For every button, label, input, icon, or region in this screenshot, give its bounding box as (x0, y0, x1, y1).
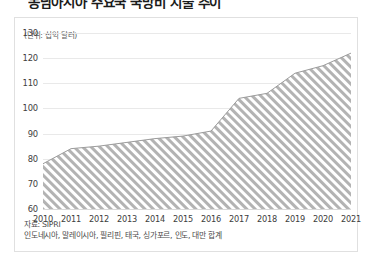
plot-area: 60708090100110120130 2010201120122013201… (43, 33, 351, 209)
y-tick-label-70: 70 (28, 179, 38, 189)
y-tick-label-100: 100 (23, 103, 38, 113)
page-root: 동남아시아 주요국 국방비 지출 추이 (단위: 십억 달러) 60708090… (0, 0, 373, 264)
y-tick-label-110: 110 (23, 78, 38, 88)
y-tick-label-120: 120 (23, 53, 38, 63)
x-tick-label-2018: 2018 (257, 214, 277, 224)
chart-card: (단위: 십억 달러) 60708090100110120130 2010201… (14, 17, 358, 252)
area-series (43, 33, 351, 209)
source-label: 자료: SIPRI (24, 219, 222, 231)
series-note-label: 인도네시아, 말레이시아, 필리핀, 태국, 싱가포르, 인도, 대만 합계 (24, 230, 222, 242)
series-layer (43, 33, 351, 209)
y-tick-label-60: 60 (28, 204, 38, 214)
x-tick-label-2019: 2019 (285, 214, 305, 224)
y-tick-label-130: 130 (23, 28, 38, 38)
gridline-60 (43, 209, 351, 210)
page-title: 동남아시아 주요국 국방비 지출 추이 (28, 0, 348, 9)
footnotes: 자료: SIPRI 인도네시아, 말레이시아, 필리핀, 태국, 싱가포르, 인… (24, 219, 222, 242)
x-tick-label-2021: 2021 (341, 214, 361, 224)
y-tick-label-90: 90 (28, 129, 38, 139)
x-tick-label-2017: 2017 (229, 214, 249, 224)
x-tick-label-2020: 2020 (313, 214, 333, 224)
y-tick-label-80: 80 (28, 154, 38, 164)
